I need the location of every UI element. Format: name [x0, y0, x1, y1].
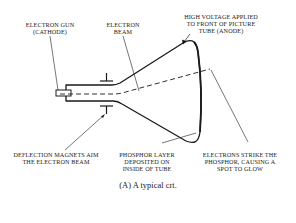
- leader-phosphor: [162, 133, 196, 143]
- figure-caption: (A) A typical crt.: [0, 180, 296, 190]
- label-high-voltage: HIGH VOLTAGE APPLIED TO FRONT OF PICTURE…: [176, 13, 266, 34]
- anode-face: [194, 42, 201, 132]
- deflection-magnet-bottom: [100, 106, 113, 114]
- leader-electron-beam: [123, 36, 139, 91]
- tube-outline: [66, 41, 201, 143]
- leader-electron-gun: [50, 36, 58, 90]
- electron-gun: [56, 90, 71, 96]
- label-electron-gun: ELECTRON GUN (CATHODE): [20, 21, 80, 35]
- deflection-magnet-top: [100, 73, 113, 81]
- label-electrons-strike: ELECTRONS STRIKE THE PHOSPHOR, CAUSING A…: [196, 151, 284, 172]
- crt-diagram: ELECTRON GUN (CATHODE) ELECTRON BEAM HIG…: [0, 0, 296, 223]
- label-deflection-magnets: DEFLECTION MAGNETS AIM THE ELECTRON BEAM: [8, 151, 104, 165]
- leader-deflection: [65, 115, 104, 150]
- leader-electrons-strike: [211, 70, 248, 142]
- label-phosphor-layer: PHOSPHOR LAYER DEPOSITED ON INSIDE OF TU…: [114, 151, 180, 172]
- anode-arrow: [183, 34, 191, 44]
- label-electron-beam: ELECTRON BEAM: [100, 21, 146, 35]
